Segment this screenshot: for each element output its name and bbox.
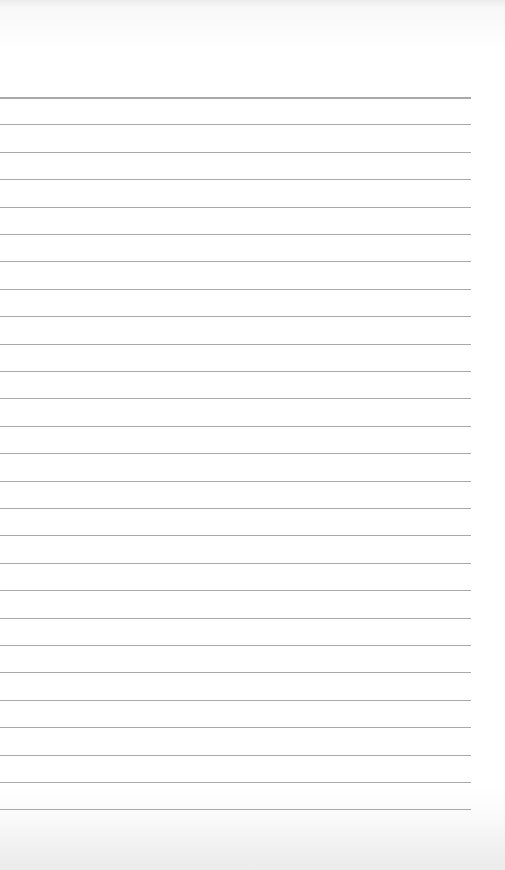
ruled-line (0, 755, 471, 756)
ruled-line (0, 371, 471, 372)
ruled-line (0, 289, 471, 290)
ruled-line (0, 672, 471, 673)
ruled-line (0, 179, 471, 180)
ruled-line (0, 782, 471, 783)
lined-paper (0, 0, 505, 870)
ruled-line (0, 618, 471, 619)
ruled-line (0, 727, 471, 728)
ruled-line (0, 645, 471, 646)
paper-bottom-edge (0, 820, 505, 870)
ruled-line (0, 481, 471, 482)
ruled-line (0, 508, 471, 509)
ruled-line (0, 207, 471, 208)
ruled-line (0, 398, 471, 399)
ruled-line (0, 426, 471, 427)
ruled-line (0, 453, 471, 454)
ruled-line (0, 152, 471, 153)
ruled-line (0, 700, 471, 701)
ruled-line (0, 535, 471, 536)
ruled-line (0, 316, 471, 317)
ruled-line (0, 124, 471, 125)
paper-top-edge (0, 0, 505, 8)
ruled-line (0, 809, 471, 810)
ruled-line (0, 590, 471, 591)
ruled-line (0, 344, 471, 345)
ruled-line (0, 261, 471, 262)
ruled-line (0, 97, 471, 99)
ruled-line (0, 563, 471, 564)
ruled-line (0, 234, 471, 235)
